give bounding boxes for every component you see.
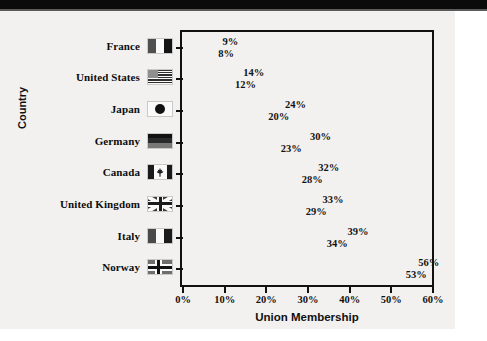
bar-value-label: 28% <box>299 175 323 186</box>
screenshot-root: Country FranceUnited StatesJapanGermanyC… <box>0 0 487 341</box>
flag-norway-icon <box>147 259 173 275</box>
flag-germany-icon <box>147 133 173 149</box>
bar-value-label: 30% <box>307 131 331 142</box>
category-name: Canada <box>103 166 140 178</box>
bar-series-1[interactable] <box>182 68 240 78</box>
x-axis-tick-label: 10% <box>214 294 235 305</box>
x-axis: 0%10%20%30%40%50%60% <box>180 287 434 309</box>
category-label-germany: Germany <box>0 128 180 154</box>
category-label-united-states: United States <box>0 64 180 90</box>
bar-group: 30%23% <box>182 127 432 159</box>
chart-canvas: Country FranceUnited StatesJapanGermanyC… <box>0 11 455 329</box>
bar-series-2[interactable] <box>182 270 403 280</box>
bar-group: 32%28% <box>182 159 432 191</box>
category-name: Norway <box>102 261 140 273</box>
category-name: Japan <box>111 103 140 115</box>
x-axis-tick <box>265 287 267 293</box>
bar-value-label: 8% <box>215 48 234 59</box>
flag-united-kingdom-icon <box>147 196 173 212</box>
window-chrome-strip <box>0 0 487 9</box>
bar-value-label: 56% <box>415 257 439 268</box>
x-axis-tick-label: 30% <box>298 294 319 305</box>
x-axis-tick <box>432 287 434 293</box>
flag-united-states-icon <box>147 69 173 85</box>
bar-series-1[interactable] <box>182 227 345 237</box>
bar-series-2[interactable] <box>182 239 324 249</box>
x-axis-tick-label: 40% <box>339 294 360 305</box>
bar-series-2[interactable] <box>182 175 299 185</box>
bar-value-label: 9% <box>220 36 239 47</box>
x-axis-title: Union Membership <box>180 311 434 323</box>
bar-value-label: 14% <box>240 68 264 79</box>
category-label-united-kingdom: United Kingdom <box>0 191 180 217</box>
bar-value-label: 23% <box>278 143 302 154</box>
bar-group: 56%53% <box>182 253 432 285</box>
category-name: Germany <box>95 135 140 147</box>
x-axis-tick-label: 0% <box>175 294 191 305</box>
x-axis-tick <box>390 287 392 293</box>
x-axis-tick-label: 50% <box>381 294 402 305</box>
category-name: France <box>106 40 140 52</box>
x-axis-tick-label: 20% <box>256 294 277 305</box>
category-name: United States <box>76 71 140 83</box>
category-label-norway: Norway <box>0 254 180 280</box>
bar-series-1[interactable] <box>182 100 282 110</box>
bar-group: 14%12% <box>182 64 432 96</box>
category-label-france: France <box>0 33 180 59</box>
flag-italy-icon <box>147 228 173 244</box>
flag-japan-icon <box>147 101 173 117</box>
category-label-column: FranceUnited StatesJapanGermanyCanadaUni… <box>0 30 180 287</box>
bar-value-label: 34% <box>324 238 348 249</box>
bar-series-2[interactable] <box>182 144 278 154</box>
bar-series-2[interactable] <box>182 112 265 122</box>
category-name: Italy <box>118 230 141 242</box>
x-axis-tick <box>182 287 184 293</box>
bar-value-label: 53% <box>403 269 427 280</box>
x-axis-tick <box>349 287 351 293</box>
category-label-japan: Japan <box>0 96 180 122</box>
flag-france-icon <box>147 38 173 54</box>
category-label-canada: Canada <box>0 159 180 185</box>
category-label-italy: Italy <box>0 223 180 249</box>
bar-value-label: 33% <box>320 194 344 205</box>
bar-series-2[interactable] <box>182 80 232 90</box>
bar-value-label: 24% <box>282 99 306 110</box>
x-axis-tick <box>224 287 226 293</box>
bar-series-2[interactable] <box>182 207 303 217</box>
bar-value-label: 12% <box>232 80 256 91</box>
bar-series-1[interactable] <box>182 258 415 268</box>
bar-series-1[interactable] <box>182 132 307 142</box>
bar-group: 24%20% <box>182 95 432 127</box>
x-axis-tick <box>307 287 309 293</box>
bar-value-label: 29% <box>303 206 327 217</box>
bar-series-1[interactable] <box>182 37 220 47</box>
bar-series-1[interactable] <box>182 195 320 205</box>
bar-series-1[interactable] <box>182 163 315 173</box>
x-axis-tick-label: 60% <box>423 294 444 305</box>
plot-area: 9%8%14%12%24%20%30%23%32%28%33%29%39%34%… <box>180 30 434 287</box>
bar-group: 33%29% <box>182 190 432 222</box>
bar-value-label: 32% <box>315 163 339 174</box>
category-name: United Kingdom <box>60 198 140 210</box>
bar-value-label: 39% <box>345 226 369 237</box>
bar-group: 39%34% <box>182 222 432 254</box>
flag-canada-icon <box>147 164 173 180</box>
bar-series-2[interactable] <box>182 49 215 59</box>
bar-value-label: 20% <box>265 111 289 122</box>
bar-rows: 9%8%14%12%24%20%30%23%32%28%33%29%39%34%… <box>182 32 432 285</box>
bar-group: 9%8% <box>182 32 432 64</box>
